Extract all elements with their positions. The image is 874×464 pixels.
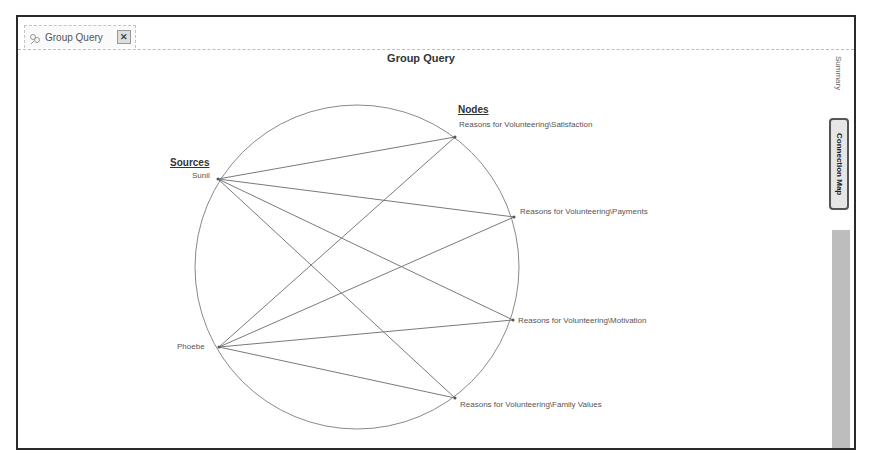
rail-scroll-strip	[832, 230, 850, 448]
nodes-heading: Nodes	[458, 104, 489, 115]
connection-lines	[218, 137, 514, 398]
source-label-phoebe[interactable]: Phoebe	[177, 342, 205, 351]
side-tab-connection-map[interactable]: Connection Map	[829, 118, 849, 210]
tab-label: Group Query	[45, 32, 103, 43]
connection-map-svg	[18, 50, 826, 450]
node-label-motivation[interactable]: Reasons for Volunteering\Motivation	[518, 316, 647, 325]
source-label-sunil[interactable]: Sunil	[192, 171, 210, 180]
sources-heading: Sources	[170, 157, 209, 168]
group-query-icon	[29, 31, 41, 43]
document-tabstrip: Group Query ✕	[18, 17, 854, 50]
close-icon[interactable]: ✕	[117, 30, 131, 44]
tab-group-query[interactable]: Group Query ✕	[24, 25, 136, 48]
source-nodes	[217, 178, 221, 349]
side-tab-rail: Summary Connection Map	[826, 50, 854, 448]
map-circle	[195, 105, 519, 429]
node-sunil	[217, 178, 220, 181]
connection-map-canvas: Group Query	[18, 50, 824, 448]
node-label-payments[interactable]: Reasons for Volunteering\Payments	[520, 207, 648, 216]
node-label-satisfaction[interactable]: Reasons for Volunteering\Satisfaction	[459, 120, 592, 129]
target-nodes	[454, 136, 516, 400]
group-query-window: Group Query ✕ Group Query	[16, 15, 856, 450]
node-label-family-values[interactable]: Reasons for Volunteering\Family Values	[460, 400, 602, 409]
node-phoebe	[218, 346, 221, 349]
side-tab-summary[interactable]: Summary	[834, 56, 843, 106]
